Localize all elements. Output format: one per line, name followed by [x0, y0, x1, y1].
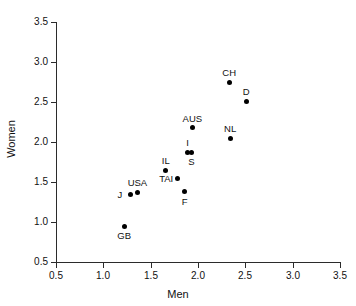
data-point	[128, 192, 133, 197]
x-tick-label: 2.0	[183, 271, 213, 281]
data-point	[175, 176, 180, 181]
y-tick-mark	[51, 222, 56, 223]
x-tick-label: 1.0	[88, 271, 118, 281]
data-point	[189, 150, 194, 155]
data-point-label: J	[117, 190, 122, 200]
data-point	[122, 224, 127, 229]
data-point-label: D	[243, 87, 250, 97]
x-tick-mark	[245, 263, 246, 268]
y-tick-label: 2.0	[22, 137, 48, 147]
x-tick-label: 2.5	[230, 271, 260, 281]
y-tick-label: 3.5	[22, 17, 48, 27]
y-axis-line	[56, 22, 57, 263]
y-axis-title: Women	[5, 109, 17, 169]
data-point-label: GB	[117, 231, 131, 241]
x-tick-label: 0.5	[41, 271, 71, 281]
data-point-label: CH	[222, 68, 236, 78]
data-point	[190, 125, 195, 130]
data-point-label: USA	[128, 178, 148, 188]
data-point-label: F	[182, 197, 188, 207]
x-tick-mark	[340, 263, 341, 268]
x-tick-mark	[151, 263, 152, 268]
data-point-label: NL	[224, 124, 236, 134]
data-point-label: IL	[162, 156, 170, 166]
x-tick-mark	[293, 263, 294, 268]
y-tick-mark	[51, 182, 56, 183]
data-point	[227, 80, 232, 85]
data-point	[244, 99, 249, 104]
x-tick-mark	[56, 263, 57, 268]
data-point-label: AUS	[183, 114, 203, 124]
x-axis-title: Men	[0, 288, 356, 300]
y-tick-label: 3.0	[22, 57, 48, 67]
y-tick-label: 1.5	[22, 177, 48, 187]
data-point-label: I	[186, 138, 189, 148]
y-tick-mark	[51, 142, 56, 143]
data-point	[228, 136, 233, 141]
x-tick-label: 3.5	[325, 271, 355, 281]
y-tick-label: 1.0	[22, 217, 48, 227]
data-point-label: TAI	[159, 174, 173, 184]
y-tick-mark	[51, 62, 56, 63]
data-point-label: S	[188, 157, 194, 167]
x-tick-mark	[198, 263, 199, 268]
x-tick-mark	[103, 263, 104, 268]
scatter-plot-figure: 0.51.01.52.02.53.03.5 0.51.01.52.02.53.0…	[0, 0, 356, 306]
data-point	[163, 168, 168, 173]
x-tick-label: 1.5	[136, 271, 166, 281]
data-point	[135, 190, 140, 195]
y-tick-mark	[51, 22, 56, 23]
data-point	[182, 189, 187, 194]
y-tick-label: 2.5	[22, 97, 48, 107]
y-tick-label: 0.5	[22, 257, 48, 267]
x-tick-label: 3.0	[278, 271, 308, 281]
y-tick-mark	[51, 102, 56, 103]
